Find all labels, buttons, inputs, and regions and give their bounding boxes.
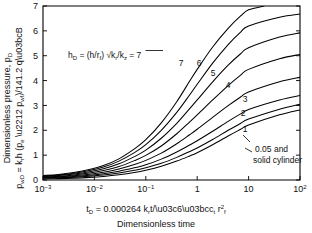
x-tick-labels: 10−310−210−1110102 [35, 184, 308, 195]
solid-cylinder-note: 0.05 and solid cylinder [253, 144, 302, 165]
y-tick-labels: 01234567 [33, 1, 38, 185]
note-line-2: solid cylinder [253, 155, 302, 165]
chart-svg: 10−310−210−1110102 01234567 7654321 hD =… [0, 0, 312, 233]
curve-label-3: 3 [243, 94, 248, 104]
yl2-eq: = k [14, 160, 24, 175]
x-axis-title: Dimensionless time [117, 219, 195, 229]
x-tick-label: 10−2 [86, 184, 104, 195]
yl-sub-d: D [7, 52, 13, 57]
yl2-minus: \u2212 p [14, 102, 24, 140]
hd-annot-eq3: = 7 [127, 50, 142, 60]
note-line-1: 0.05 and [255, 144, 288, 154]
xl-sub-f: f [224, 209, 226, 215]
x-axis-label: tD = 0.000264 krt/\u03c6\u03bcct r2f Dim… [86, 204, 226, 229]
curve-1 [43, 104, 300, 178]
x-tick-label: 10−1 [137, 184, 155, 195]
curve-7 [43, 6, 264, 176]
yl2-h: h (p [14, 143, 24, 159]
hd-annotation: hD = (h/rf) √kr/kz = 7 [68, 50, 163, 61]
yl2-tail: )/141.2 q\u03bcB [14, 27, 24, 96]
curve-2 [43, 95, 300, 177]
y-tick-label: 6 [33, 26, 38, 36]
x-tick-label: 10 [244, 184, 254, 194]
x-axis-equation: tD = 0.000264 krt/\u03c6\u03bcct r2f [86, 204, 226, 215]
y-axis-label: Dimensionless pressure, pD pwD = krh (pe… [2, 27, 25, 188]
yl-text: Dimensionless pressure, p [2, 57, 12, 163]
x-tick-label: 102 [293, 184, 307, 195]
y-tick-label: 1 [33, 150, 38, 160]
y-tick-label: 7 [33, 1, 38, 11]
y-axis-equation: pwD = krh (pe \u2212 pwf)/141.2 q\u03bcB [14, 27, 25, 188]
y-axis-title: Dimensionless pressure, pD [2, 52, 13, 163]
y-tick-label: 2 [33, 125, 38, 135]
leader-line-curve-005 [245, 148, 252, 152]
curve-label-1: 1 [243, 124, 248, 134]
figure-container: 10−310−210−1110102 01234567 7654321 hD =… [0, 0, 312, 233]
curve-label-5: 5 [211, 68, 216, 78]
curve-label-4: 4 [226, 80, 231, 90]
y-tick-label: 5 [33, 51, 38, 61]
y-tick-label: 0 [33, 175, 38, 185]
xl-eq: = 0.000264 k [93, 204, 148, 214]
y-tick-label: 4 [33, 76, 38, 86]
x-tick-label: 1 [195, 184, 200, 194]
curve-label-6: 6 [197, 58, 202, 68]
curve-label-2: 2 [241, 108, 246, 118]
hd-annot-eq1: = (h/r [77, 50, 100, 60]
hd-annotation-text: hD = (h/rf) √kr/kz = 7 [68, 50, 142, 61]
leader-line-curve-1 [243, 135, 250, 142]
y-tick-label: 3 [33, 101, 38, 111]
curve-label-7: 7 [179, 58, 184, 68]
xl-t2: t/\u03c6\u03bcc [150, 204, 214, 214]
